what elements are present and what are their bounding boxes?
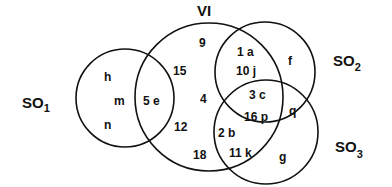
region-all-16p: 16 p: [244, 110, 268, 124]
region-vi-9: 9: [199, 36, 206, 50]
circle-so2: [215, 22, 315, 122]
region-vi-12: 12: [174, 120, 188, 134]
region-vi-so2-10j: 10 j: [236, 64, 256, 78]
region-vi-so2-1a: 1 a: [237, 45, 254, 59]
region-vi-15: 15: [173, 64, 187, 78]
region-so1-vi: 5 e: [143, 94, 160, 108]
region-so2-so3-q: q: [289, 104, 296, 118]
region-so1-n: n: [104, 118, 111, 132]
region-so2-f: f: [288, 54, 293, 68]
region-so3-g: g: [279, 150, 286, 164]
label-so2: SO2: [333, 52, 361, 73]
region-vi-so3-11k: 11 k: [229, 146, 252, 160]
region-vi-so3-2b: 2 b: [218, 126, 235, 140]
region-vi-18: 18: [193, 148, 207, 162]
region-so1-h: h: [104, 70, 111, 84]
region-so1-m: m: [114, 94, 125, 108]
label-so3: SO3: [335, 138, 363, 160]
label-vi: VI: [197, 2, 211, 19]
venn-diagram: VI SO1 SO2 SO3 h m n 5 e 9 15 4 12 18 1 …: [0, 0, 392, 187]
region-all-3c: 3 c: [249, 88, 266, 102]
region-vi-4: 4: [200, 92, 207, 106]
label-so1: SO1: [22, 94, 50, 114]
